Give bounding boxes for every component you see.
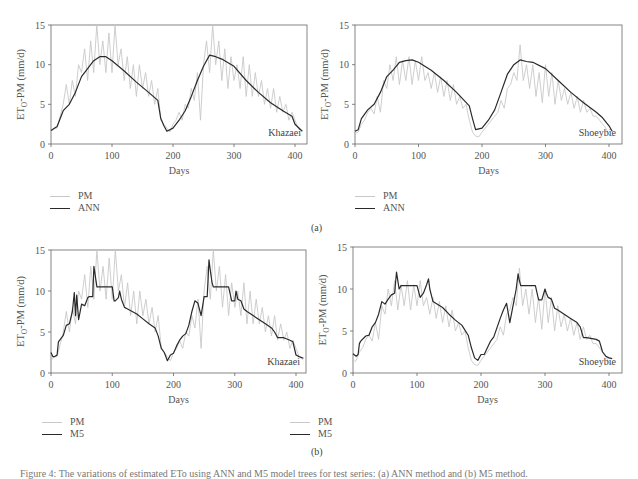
legend-item-pm: PM [42, 416, 84, 428]
pm-line-swatch-icon [42, 422, 62, 423]
legend-label: PM [78, 190, 92, 202]
legend-item-model: M5 [290, 428, 332, 440]
x-tick-label: 300 [538, 379, 553, 390]
legend-b-left: PM M5 [42, 416, 84, 440]
model-line-swatch-icon [290, 434, 310, 435]
x-tick-label: 0 [351, 379, 356, 390]
legend-item-model: ANN [50, 202, 100, 214]
model-line-swatch-icon [42, 434, 62, 435]
x-tick-label: 100 [410, 379, 425, 390]
y-tick-label: 5 [342, 326, 347, 337]
legend-label: ANN [383, 202, 405, 214]
legend-label: M5 [70, 428, 84, 440]
y-axis-label: ETO-PM (mm/d) [317, 274, 331, 346]
legend-label: PM [383, 190, 397, 202]
legend-label: PM [70, 416, 84, 428]
y-tick-label: 10 [337, 284, 347, 295]
model-series-line [353, 272, 612, 360]
legend-item-pm: PM [290, 416, 332, 428]
y-tick-label: 15 [337, 242, 347, 253]
plot-frame [353, 247, 622, 373]
y-tick-label: 0 [342, 368, 347, 379]
x-tick-label: 200 [474, 379, 489, 390]
pm-line-swatch-icon [50, 196, 70, 197]
legend-label: ANN [78, 202, 100, 214]
subfigure-label-a: (a) [311, 222, 322, 233]
station-label: Shoeybie [579, 356, 617, 367]
legend-item-pm: PM [355, 190, 405, 202]
legend-label: M5 [318, 428, 332, 440]
pm-series-line [353, 268, 612, 365]
legend-a-left: PM ANN [50, 190, 100, 214]
legend-item-model: ANN [355, 202, 405, 214]
x-axis-label: Days [477, 394, 498, 405]
pm-line-swatch-icon [290, 422, 310, 423]
subfigure-label-b: (b) [311, 446, 323, 457]
legend-a-right: PM ANN [355, 190, 405, 214]
legend-b-right: PM M5 [290, 416, 332, 440]
legend-label: PM [318, 416, 332, 428]
pm-line-swatch-icon [355, 196, 375, 197]
x-tick-label: 400 [602, 379, 617, 390]
legend-item-pm: PM [50, 190, 100, 202]
legend-item-model: M5 [42, 428, 84, 440]
figure-caption: Figure 4: The variations of estimated ET… [20, 468, 528, 479]
model-line-swatch-icon [50, 208, 70, 209]
model-line-swatch-icon [355, 208, 375, 209]
